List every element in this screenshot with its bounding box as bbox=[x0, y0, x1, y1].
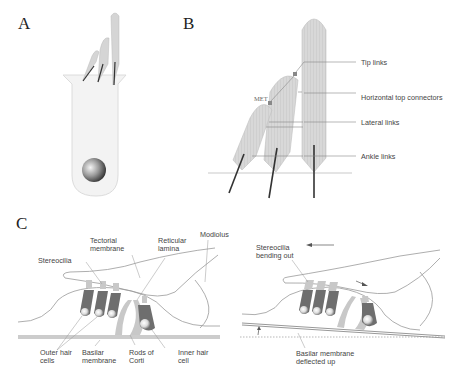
panel-c: C bbox=[16, 214, 445, 366]
panel-label-c: C bbox=[16, 214, 27, 233]
met-channel-icon bbox=[293, 72, 297, 76]
label-tectorial-membrane-2: membrane bbox=[90, 244, 124, 253]
panel-label-a: A bbox=[18, 14, 31, 33]
label-reticular-lamina-2: lamina bbox=[158, 244, 179, 253]
label-rods-of-corti-2: Corti bbox=[129, 356, 145, 365]
label-inner-hair-cell-2: cell bbox=[178, 356, 189, 365]
label-basilar-membrane-2: membrane bbox=[82, 356, 116, 365]
callout-horizontal-top-connectors: Horizontal top connectors bbox=[361, 93, 443, 102]
callout-lateral-links: Lateral links bbox=[361, 118, 400, 127]
met-channel-icon bbox=[268, 101, 272, 105]
label-outer-hair-cells-2: cells bbox=[40, 356, 55, 365]
label-modiolus: Modiolus bbox=[200, 230, 229, 239]
panel-b: B MET Tip links Horizontal top connector… bbox=[183, 14, 443, 198]
label-basilar-membrane-deflected-2: deflected up bbox=[296, 357, 335, 366]
stereocilia-bundle bbox=[83, 13, 119, 85]
organ-of-corti-deflected: Stereocilia bending out Basilar membrane… bbox=[240, 243, 445, 366]
hair-cell-diagram: A B MET bbox=[0, 0, 459, 380]
panel-label-b: B bbox=[183, 14, 194, 33]
label-stereocilia-bending-out-2: bending out bbox=[256, 251, 294, 260]
label-stereocilia: Stereocilia bbox=[38, 256, 72, 265]
organ-of-corti-rest: Tectorial membrane Reticular lamina Modi… bbox=[18, 230, 229, 365]
outer-hair-cells bbox=[80, 280, 121, 318]
panel-a: A bbox=[18, 13, 126, 196]
inner-hair-cell bbox=[138, 296, 155, 331]
callout-ankle-links: Ankle links bbox=[361, 152, 396, 161]
met-label: MET bbox=[254, 95, 268, 102]
nucleus bbox=[82, 158, 106, 182]
inner-hair-cell-deflected bbox=[362, 296, 377, 326]
callout-tip-links: Tip links bbox=[361, 58, 387, 67]
outer-hair-cells-deflected bbox=[299, 280, 339, 316]
